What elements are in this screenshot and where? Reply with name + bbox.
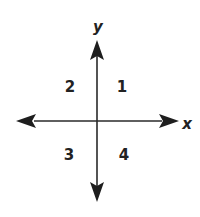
coordinate-plane-diagram: y x 1 2 3 4 (0, 0, 200, 217)
quadrant-4-label: 4 (119, 148, 129, 163)
x-axis-left-arrow-icon (16, 114, 36, 128)
x-axis-label: x (182, 117, 192, 132)
quadrant-3-label: 3 (64, 148, 74, 163)
quadrant-1-label: 1 (117, 80, 127, 95)
quadrant-2-label: 2 (65, 80, 75, 95)
y-axis-label: y (93, 20, 103, 35)
